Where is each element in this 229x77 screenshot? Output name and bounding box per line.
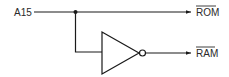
wire-branch-to-inverter [76,12,103,52]
output-ram: RAM [196,47,218,59]
inverter-gate [102,32,139,74]
input-label-a15: A15 [14,7,32,18]
inverter-bubble [140,50,146,56]
output-rom: ROM [196,6,219,18]
output-label-rom: ROM [196,7,219,18]
address-decode-diagram: A15 ROM RAM [0,0,229,77]
output-label-ram: RAM [196,48,218,59]
